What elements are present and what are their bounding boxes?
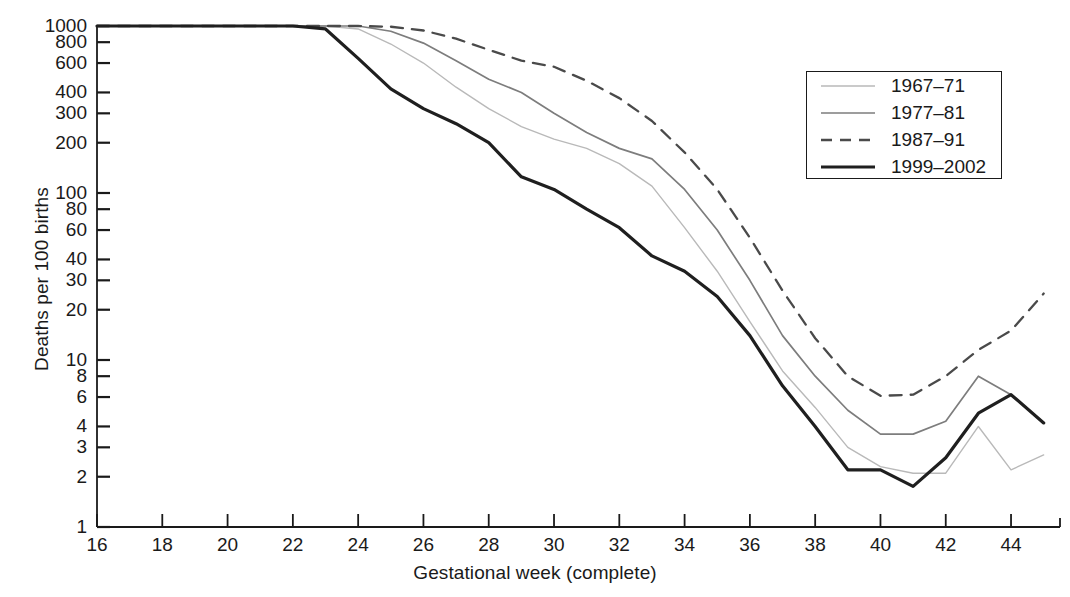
legend-item: 1999–2002	[807, 153, 1001, 180]
x-tick-label: 36	[720, 534, 780, 556]
legend-item: 1967–71	[807, 72, 1001, 99]
legend-swatch-line-icon	[819, 76, 877, 96]
x-tick-label: 28	[459, 534, 519, 556]
x-tick-label: 32	[589, 534, 649, 556]
x-tick-label: 30	[524, 534, 584, 556]
x-tick-label: 20	[198, 534, 258, 556]
x-tick-label: 24	[328, 534, 388, 556]
legend-swatch-line-icon	[819, 130, 877, 150]
legend-item: 1987–91	[807, 126, 1001, 153]
y-tick-label: 2	[27, 466, 87, 488]
y-tick-label: 4	[27, 415, 87, 437]
x-tick-label: 16	[67, 534, 127, 556]
y-tick-label: 400	[27, 81, 87, 103]
x-tick-label: 42	[916, 534, 976, 556]
x-tick-label: 44	[981, 534, 1041, 556]
x-tick-label: 34	[655, 534, 715, 556]
legend-label: 1967–71	[891, 75, 965, 97]
y-tick-label: 600	[27, 52, 87, 74]
x-tick-label: 18	[132, 534, 192, 556]
legend-label: 1999–2002	[891, 156, 986, 178]
legend-swatch-line-icon	[819, 103, 877, 123]
y-tick-label: 3	[27, 436, 87, 458]
legend-item: 1977–81	[807, 99, 1001, 126]
x-tick-label: 22	[263, 534, 323, 556]
legend-swatch-line-icon	[819, 157, 877, 177]
x-axis-ticks	[97, 514, 1011, 527]
y-tick-label: 300	[27, 102, 87, 124]
chart-container: 1000800600400300200100806040302010864321…	[0, 0, 1070, 597]
x-tick-label: 38	[785, 534, 845, 556]
y-tick-label: 800	[27, 31, 87, 53]
chart-legend: 1967–711977–811987–911999–2002	[806, 71, 1002, 179]
x-tick-label: 40	[850, 534, 910, 556]
y-axis-title: Deaths per 100 births	[31, 149, 53, 409]
x-axis-title: Gestational week (complete)	[0, 562, 1070, 584]
y-axis-ticks	[97, 26, 110, 527]
legend-label: 1977–81	[891, 102, 965, 124]
x-tick-label: 26	[393, 534, 453, 556]
legend-label: 1987–91	[891, 129, 965, 151]
